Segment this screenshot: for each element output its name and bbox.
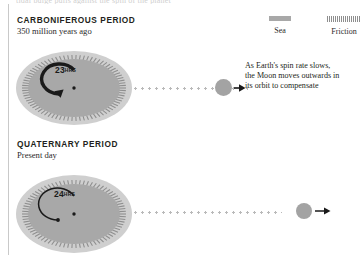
earth-svg [14, 50, 134, 126]
left-vertical-rule [8, 4, 9, 255]
section-subtitle: Present day [17, 150, 118, 161]
section-heading-carboniferous: CARBONIFEROUS PERIOD 350 million years a… [17, 15, 135, 37]
earth-diagram-quaternary: 24HRS [14, 174, 134, 254]
earth-axis-dot [72, 86, 75, 89]
annotation-text-carboniferous: As Earth's spin rate slows, the Moon mov… [245, 61, 341, 91]
cropped-top-text: tidal bulge pulls against the spin of th… [16, 0, 316, 4]
earth-diagram-carboniferous: 23HRS [14, 50, 134, 126]
section-title: CARBONIFEROUS PERIOD [17, 15, 135, 25]
moon-carboniferous [215, 79, 232, 96]
legend-label-friction: Friction [331, 27, 356, 36]
section-title: QUATERNARY PERIOD [17, 139, 118, 149]
moon-quaternary [296, 203, 312, 219]
sea-swatch-icon [269, 16, 291, 21]
orbit-dotted-line-quaternary [132, 211, 282, 214]
moon-motion-arrow-icon [315, 207, 331, 214]
earth-axis-dot [72, 212, 75, 215]
earth-svg [14, 174, 134, 254]
friction-swatch-icon [327, 16, 361, 22]
legend-item-sea: Sea [258, 16, 302, 36]
legend-item-friction: Friction [322, 16, 364, 36]
section-subtitle: 350 million years ago [17, 26, 135, 37]
section-heading-quaternary: QUATERNARY PERIOD Present day [17, 139, 118, 161]
legend: Sea Friction [258, 16, 364, 36]
legend-label-sea: Sea [274, 26, 286, 35]
